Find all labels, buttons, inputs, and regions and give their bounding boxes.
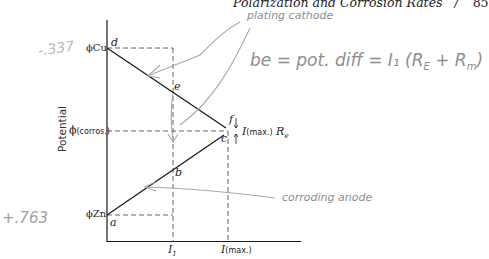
cathode-polarization-line bbox=[107, 48, 226, 128]
potential-difference-equation: be = pot. diff = I₁ (RE + Rm) bbox=[250, 50, 483, 72]
i1-label: I1 bbox=[168, 243, 177, 258]
equation-main: be = pot. diff = I₁ (R bbox=[250, 50, 423, 70]
header-separator: / bbox=[454, 0, 458, 10]
phi-symbol: ϕ bbox=[69, 124, 77, 137]
ir-suffix-sub: e bbox=[284, 132, 288, 140]
point-e: e bbox=[174, 80, 181, 93]
plating-cathode-note: plating cathode bbox=[247, 9, 333, 22]
point-d: d bbox=[111, 36, 118, 49]
ir-sub: (max.) bbox=[246, 128, 272, 137]
equation-mid: + R bbox=[430, 50, 467, 70]
ir-drop-arrows bbox=[234, 118, 238, 144]
phi-zn-label: ϕZn bbox=[86, 208, 106, 219]
phi-cu-label: ϕCu bbox=[86, 42, 107, 53]
corroding-anode-note: corroding anode bbox=[282, 191, 372, 204]
point-c: c bbox=[221, 132, 227, 145]
anode-polarization-line bbox=[107, 135, 224, 215]
imax-subscript: (max.) bbox=[225, 246, 251, 255]
i1-subscript: 1 bbox=[172, 250, 176, 258]
point-a: a bbox=[110, 216, 117, 229]
phi-corros-subscript: (corros.) bbox=[77, 127, 110, 136]
imax-label: I(max.) bbox=[221, 243, 252, 256]
equation-end: ) bbox=[476, 50, 483, 70]
point-f: f bbox=[229, 113, 233, 126]
phi-corros-label: ϕ(corros.) bbox=[69, 124, 110, 137]
margin-note-bottom: +.763 bbox=[2, 209, 48, 227]
page-number: 85 bbox=[473, 0, 489, 10]
y-axis-label: Potential bbox=[56, 106, 68, 152]
equation-sub-m: m bbox=[467, 61, 477, 72]
point-b: b bbox=[175, 166, 182, 179]
ir-drop-label: I(max.) Re bbox=[242, 125, 289, 140]
